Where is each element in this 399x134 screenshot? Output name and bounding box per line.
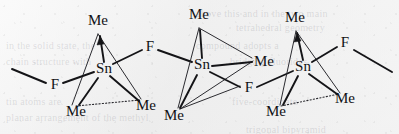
atom-label-me: Me: [335, 90, 355, 106]
atom-label-me: Me: [266, 103, 286, 119]
tetrahedron-edges-2: [178, 28, 253, 109]
chemical-structure-diagram: Sn Me F Me Me F Sn Me Me F: [0, 0, 399, 134]
figure-canvas: above this and in the two maintetrahedra…: [0, 0, 399, 134]
atom-label-me: Me: [136, 97, 156, 113]
atom-label-me: Me: [189, 6, 209, 22]
bond-sn-f-bridge-right: [312, 47, 337, 62]
atom-label-me: Me: [66, 103, 86, 119]
atom-label-sn: Sn: [295, 58, 311, 74]
atom-label-me: Me: [254, 53, 274, 69]
bond-sn-me-basal-left: [79, 78, 98, 105]
bond-sn-me-apical: [200, 30, 202, 58]
tin-unit-3: Sn Me F Me Me: [266, 9, 355, 119]
bond-sn-f-bridge-right: [113, 50, 142, 64]
bond-sn-me-basal-right: [309, 74, 337, 94]
bridge-bond-f1-sn2: [158, 50, 192, 62]
atom-label-f: F: [245, 79, 253, 95]
atom-label-me: Me: [285, 9, 305, 25]
atom-label-f: F: [51, 76, 59, 92]
tin-unit-1: Sn Me F Me Me F: [51, 12, 157, 119]
wedge-sn-me-apical: [97, 36, 104, 45]
bond-sn-f-bridge-right: [210, 72, 240, 87]
atom-label-sn: Sn: [96, 60, 112, 76]
atom-label-f: F: [341, 34, 349, 50]
bridge-bond-f2-sn3: [257, 71, 293, 87]
atom-label-sn: Sn: [194, 56, 210, 72]
atom-label-me: Me: [164, 107, 184, 123]
atom-label-f: F: [146, 38, 154, 54]
chain-terminus-left: [12, 69, 46, 83]
chain-terminus-right: [354, 50, 392, 72]
tetra-edge-hidden: [281, 94, 339, 106]
tin-unit-2: Sn Me Me F Me: [164, 6, 274, 123]
bond-sn-f-bridge-left: [63, 72, 94, 83]
tetra-edge: [199, 28, 252, 58]
tetra-edge: [72, 34, 98, 105]
atom-label-me: Me: [88, 12, 108, 28]
